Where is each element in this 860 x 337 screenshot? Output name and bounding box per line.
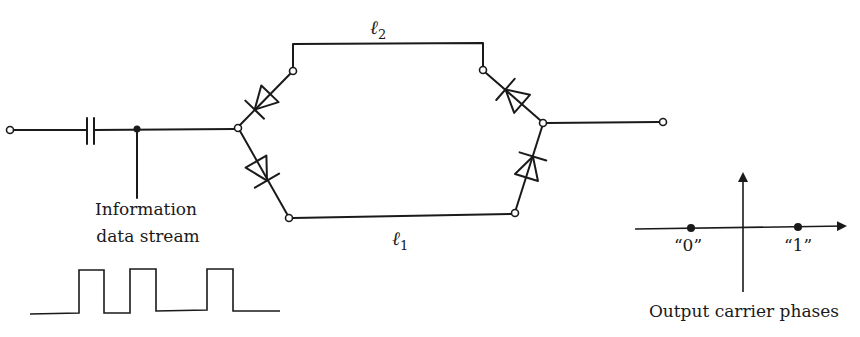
- node-l1-right: [512, 210, 519, 217]
- diode-icon: [244, 155, 279, 188]
- node-l2-left: [290, 68, 297, 75]
- input-terminal: [7, 127, 14, 134]
- data-stream-waveform: [30, 269, 280, 314]
- output-terminal: [660, 119, 667, 126]
- right-combine-node: [540, 120, 547, 127]
- phase-label-one: “1”: [784, 235, 812, 255]
- phase-point-zero: [687, 224, 695, 232]
- phase-constellation: “0” “1” Output carrier phases: [635, 174, 845, 321]
- diode-upper-right: [486, 73, 540, 120]
- data-stream-caption-line1: Information: [95, 199, 197, 219]
- diode-lower-right: [513, 127, 546, 209]
- output-wire: [547, 122, 659, 123]
- line-l2: [290, 43, 487, 75]
- line-l1: [286, 210, 519, 222]
- in-phase-axis: [635, 226, 845, 229]
- bias-wire: [94, 129, 235, 130]
- diode-upper-left: [240, 74, 290, 125]
- diode-lower-left: [240, 131, 287, 214]
- capacitor-icon: [87, 118, 94, 144]
- phase-caption: Output carrier phases: [649, 301, 839, 321]
- input-section: [7, 118, 236, 198]
- node-l1-left: [286, 215, 293, 222]
- label-l2: ℓ2: [370, 16, 386, 42]
- phase-shift-keying-modulator-diagram: ℓ2 ℓ1 Information data stream “0” “1” Ou…: [0, 0, 860, 337]
- label-l1: ℓ1: [392, 227, 408, 253]
- data-stream-caption-line2: data stream: [96, 226, 199, 246]
- phase-point-one: [794, 223, 802, 231]
- phase-label-zero: “0”: [674, 235, 702, 255]
